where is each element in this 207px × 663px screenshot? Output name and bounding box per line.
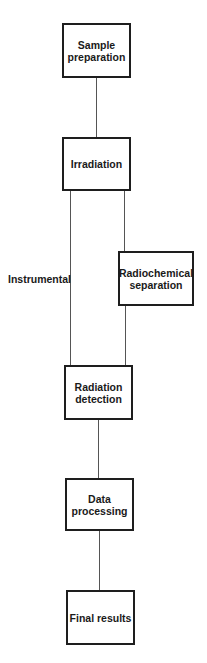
node-sample-preparation: Sample preparation (62, 23, 131, 78)
connector-sample-to-irradiation (96, 78, 97, 137)
node-irradiation: Irradiation (62, 137, 131, 191)
node-data-processing: Data processing (65, 478, 134, 531)
connector-processing-to-results (99, 531, 100, 590)
connector-radiochemical-to-detection (125, 306, 126, 365)
node-radiochemical-separation: Radiochemical separation (118, 251, 194, 306)
node-radiation-detection: Radiation detection (64, 365, 133, 420)
node-final-results: Final results (66, 590, 135, 645)
connector-detection-to-processing (98, 420, 99, 478)
connector-irradiation-to-radiochemical (124, 191, 125, 251)
instrumental-path-label: Instrumental (8, 273, 71, 285)
